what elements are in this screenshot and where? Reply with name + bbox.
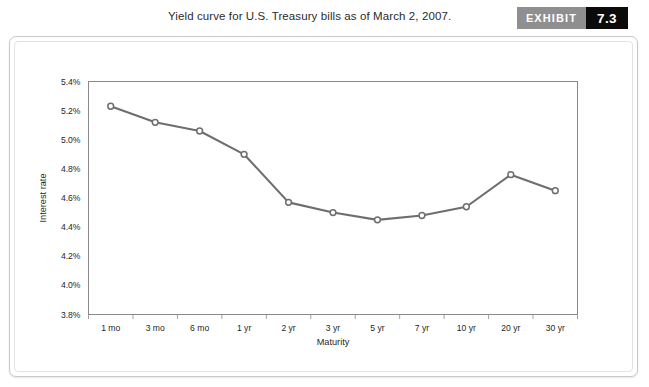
- data-point-marker: [286, 199, 292, 205]
- data-point-marker: [330, 210, 336, 216]
- y-axis-tick-label: 5.0%: [61, 135, 81, 145]
- y-axis-tick-label: 3.8%: [61, 310, 81, 320]
- y-axis-tick-label: 5.2%: [61, 106, 81, 116]
- data-point-marker: [241, 151, 247, 157]
- data-point-marker: [419, 213, 425, 219]
- x-axis-tick-label: 2 yr: [281, 323, 295, 333]
- data-point-marker: [152, 119, 158, 125]
- x-axis-tick-label: 30 yr: [546, 323, 565, 333]
- y-axis-tick-label: 4.2%: [61, 251, 81, 261]
- data-point-marker: [108, 103, 114, 109]
- x-axis-tick-label: 10 yr: [457, 323, 476, 333]
- data-point-marker: [508, 172, 514, 178]
- x-axis-tick-label: 3 yr: [326, 323, 340, 333]
- y-axis-tick-label: 4.8%: [61, 164, 81, 174]
- x-axis-tick-label: 3 mo: [146, 323, 165, 333]
- y-axis-tick-label: 4.0%: [61, 280, 81, 290]
- plot-area-frame: [89, 82, 578, 315]
- data-point-marker: [463, 204, 469, 210]
- y-axis-tick-label: 4.6%: [61, 193, 81, 203]
- y-axis-tick-labels: 3.8%4.0%4.2%4.4%4.6%4.8%5.0%5.2%5.4%: [61, 77, 81, 320]
- x-axis-tick-label: 1 yr: [237, 323, 251, 333]
- yield-curve-chart: 3.8%4.0%4.2%4.4%4.6%4.8%5.0%5.2%5.4% 1 m…: [0, 0, 649, 387]
- data-point-marker: [552, 188, 558, 194]
- x-axis-tick-label: 5 yr: [370, 323, 384, 333]
- x-axis-tick-label: 7 yr: [415, 323, 429, 333]
- chart-canvas: 3.8%4.0%4.2%4.4%4.6%4.8%5.0%5.2%5.4% 1 m…: [0, 0, 649, 387]
- x-axis-tick-label: 1 mo: [101, 323, 120, 333]
- x-axis-tick-labels: 1 mo3 mo6 mo1 yr2 yr3 yr5 yr7 yr10 yr20 …: [101, 323, 565, 333]
- y-axis-title: Interest rate: [38, 173, 48, 222]
- y-axis-tick-label: 4.4%: [61, 222, 81, 232]
- x-axis-tick-label: 20 yr: [501, 323, 520, 333]
- data-point-marker: [375, 217, 381, 223]
- data-point-marker: [197, 128, 203, 134]
- x-axis-tick-label: 6 mo: [190, 323, 209, 333]
- x-axis-title: Maturity: [317, 337, 350, 347]
- y-axis-tick-label: 5.4%: [61, 77, 81, 87]
- x-axis-ticks: [89, 315, 578, 320]
